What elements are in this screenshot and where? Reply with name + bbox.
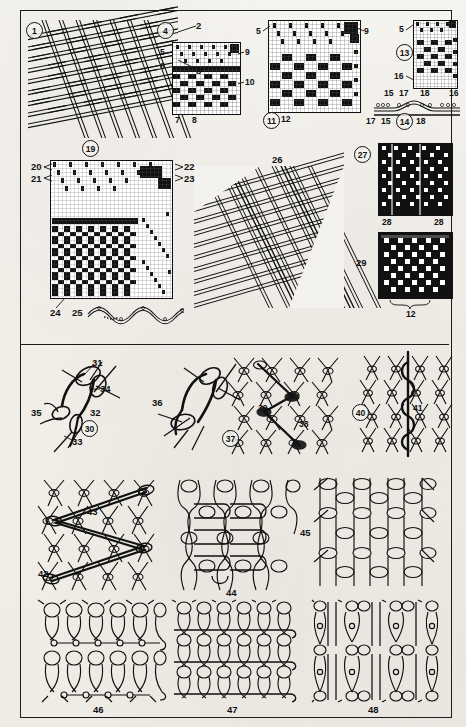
- callout-15-fig14: 15: [381, 117, 391, 126]
- callout-41-fig40: 41: [413, 404, 423, 413]
- figure-46-warp-knit: [38, 600, 166, 702]
- callout-36: 36: [152, 398, 163, 408]
- callout-17-fig13: 17: [399, 89, 409, 98]
- figure-number-19: 19: [82, 140, 99, 157]
- callout-7-fig4: 7: [175, 116, 180, 125]
- figure-number-14: 14: [396, 113, 413, 130]
- figure-number-37: 37: [222, 430, 239, 447]
- figure-19-weave-draft: [50, 160, 172, 298]
- figure-40-net-mesh: [360, 350, 456, 460]
- callout-48: 48: [368, 705, 379, 715]
- figure-27-pattern-swatch: [378, 143, 452, 215]
- figure-1-woven-fabric: [28, 20, 178, 138]
- callout-45: 45: [300, 528, 311, 538]
- callout-5-fig4: 5: [160, 48, 165, 57]
- figure-number-13: 13: [396, 44, 413, 61]
- callout-23-fig19: 23: [184, 174, 195, 184]
- callout-16-fig13: 16: [394, 72, 404, 81]
- callout-38-fig37: 38: [299, 420, 309, 429]
- figure-number-11: 11: [263, 112, 280, 129]
- figure-4-weave-draft: [172, 42, 240, 114]
- callout-39-fig37: 39: [258, 404, 268, 413]
- callout-25-fig19: 25: [72, 308, 83, 318]
- callout-28-fig27: 28: [382, 218, 392, 227]
- callout-46: 46: [93, 705, 104, 715]
- figure-number-27: 27: [354, 146, 371, 163]
- callout-18-fig14: 18: [416, 117, 426, 126]
- callout-18-fig13: 18: [420, 89, 430, 98]
- figure-14-cross-section: [372, 96, 462, 118]
- callout-29: 29: [356, 258, 367, 268]
- callout-20-fig19: 20: [31, 162, 42, 172]
- callout-32-fig30: 32: [90, 408, 101, 418]
- figure-25-cross-section: [86, 303, 186, 321]
- figure-26-woven-fabric: [194, 166, 344, 308]
- callout-47: 47: [227, 705, 238, 715]
- callout-6-fig4: 6: [160, 62, 165, 71]
- figure-plate: 1 2 3 4: [0, 0, 466, 727]
- callout-16b-fig13: 16: [449, 89, 459, 98]
- figure-48-warp-knit: [312, 600, 440, 702]
- callout-26: 26: [272, 155, 283, 165]
- callout-43-fig42: 43: [87, 507, 98, 517]
- figure-29-pattern-swatch: [378, 232, 452, 298]
- callout-22-fig19: 22: [184, 162, 195, 172]
- figure-number-30: 30: [81, 420, 98, 437]
- callout-28b-fig27: 28: [434, 218, 444, 227]
- figure-37-net-mesh: [228, 350, 340, 460]
- callout-44: 44: [226, 588, 237, 598]
- figure-45-warp-knit: [310, 476, 438, 588]
- callout-5-fig13: 5: [399, 25, 404, 34]
- callout-12-fig11: 12: [281, 115, 291, 124]
- figure-number-4: 4: [157, 22, 174, 39]
- figure-11-weave-draft: [268, 20, 360, 112]
- figure-47-warp-knit: [172, 600, 300, 702]
- callout-10-fig4: 10: [245, 78, 255, 87]
- figure-number-1: 1: [26, 22, 43, 39]
- figure-44-warp-knit: [172, 476, 298, 592]
- figure-number-40: 40: [352, 404, 369, 421]
- callout-35-fig30: 35: [31, 408, 42, 418]
- section-divider: [21, 344, 449, 345]
- figure-42-net-mesh: [36, 476, 164, 594]
- callout-8-fig4: 8: [192, 116, 197, 125]
- callout-21-fig19: 21: [31, 174, 42, 184]
- callout-12-fig29: 12: [406, 310, 416, 319]
- callout-42: 42: [38, 569, 49, 579]
- figure-13-weave-draft: [413, 20, 457, 88]
- callout-5-fig11: 5: [256, 27, 261, 36]
- callout-15-fig13: 15: [384, 89, 394, 98]
- callout-17-fig14: 17: [366, 117, 376, 126]
